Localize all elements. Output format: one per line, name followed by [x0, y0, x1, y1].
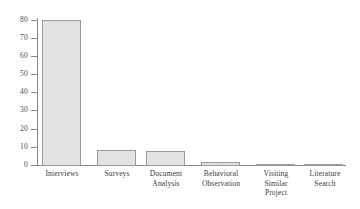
x-label-literature-search: Literature Search — [298, 169, 352, 188]
y-tick-label-60: 60 — [4, 52, 28, 60]
y-tick-mark — [31, 20, 37, 21]
x-axis-line — [37, 165, 346, 166]
x-label-line: Project — [249, 188, 303, 198]
y-tick-mark — [31, 147, 37, 148]
y-tick-mark — [31, 92, 37, 93]
y-tick-label-80: 80 — [4, 16, 28, 24]
x-label-line: Visiting — [249, 169, 303, 179]
bar-visiting-similar-project — [256, 164, 295, 166]
bar-interviews — [42, 20, 81, 166]
x-label-line: Observation — [189, 179, 253, 189]
y-tick-mark — [31, 56, 37, 57]
x-label-behavioral-observation: Behavioral Observation — [189, 169, 253, 188]
y-tick-label-50: 50 — [4, 70, 28, 78]
y-tick-label-30: 30 — [4, 106, 28, 114]
y-tick-label-40: 40 — [4, 88, 28, 96]
x-label-line: Analysis — [137, 179, 195, 189]
x-label-visiting-similar-project: Visiting Similar Project — [249, 169, 303, 198]
y-tick-mark — [31, 74, 37, 75]
y-tick-label-10: 10 — [4, 143, 28, 151]
y-tick-label-0: 0 — [4, 161, 28, 169]
x-label-line: Behavioral — [189, 169, 253, 179]
x-label-line: Search — [298, 179, 352, 189]
bar-chart: 0 10 20 30 40 50 60 70 80 Interviews Sur… — [0, 0, 360, 209]
x-label-line: Interviews — [32, 169, 92, 179]
x-label-interviews: Interviews — [32, 169, 92, 179]
x-label-line: Literature — [298, 169, 352, 179]
x-label-document-analysis: Document Analysis — [137, 169, 195, 188]
bar-surveys — [97, 150, 136, 166]
y-tick-label-70: 70 — [4, 34, 28, 42]
y-tick-mark — [31, 38, 37, 39]
bar-literature-search — [304, 164, 343, 166]
y-tick-mark — [31, 110, 37, 111]
y-tick-mark — [31, 129, 37, 130]
bar-behavioral-observation — [201, 162, 240, 166]
x-label-line: Document — [137, 169, 195, 179]
bar-document-analysis — [146, 151, 185, 166]
x-label-line: Similar — [249, 179, 303, 189]
y-tick-mark — [31, 165, 37, 166]
y-axis-line — [37, 18, 38, 166]
y-tick-label-20: 20 — [4, 125, 28, 133]
